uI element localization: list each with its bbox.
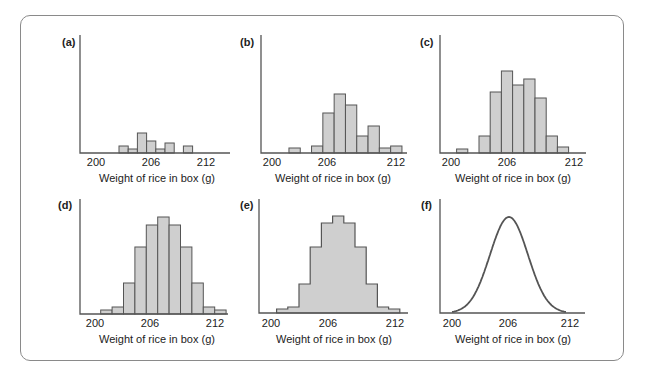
histogram-bar xyxy=(513,85,524,153)
xlabel-d: Weight of rice in box (g) xyxy=(99,333,215,345)
histogram-bar xyxy=(501,71,512,153)
xlabel-f: Weight of rice in box (g) xyxy=(455,333,571,345)
panel-label-a: (a) xyxy=(62,36,76,48)
bars-b xyxy=(289,94,402,153)
histogram-bar xyxy=(192,283,203,314)
tick-212-e: 212 xyxy=(386,317,404,329)
xlabel-c: Weight of rice in box (g) xyxy=(455,172,571,184)
panel-label-e: (e) xyxy=(240,199,254,211)
panel-label-f: (f) xyxy=(421,199,432,211)
tick-206-f: 206 xyxy=(499,317,517,329)
histogram-bar xyxy=(135,247,146,314)
tick-200-c: 200 xyxy=(442,156,460,168)
panel-label-d: (d) xyxy=(58,199,72,211)
tick-200-d: 200 xyxy=(86,317,104,329)
panel-c: (c) 200 206 212 Weight of rice in box (g… xyxy=(420,35,586,184)
panel-label-c: (c) xyxy=(420,36,434,48)
histogram-bar xyxy=(158,217,169,314)
histogram-bar xyxy=(181,247,192,314)
histogram-bar xyxy=(490,92,501,153)
bars-a xyxy=(119,133,193,153)
stepped-area-e xyxy=(277,216,400,313)
tick-206-a: 206 xyxy=(142,156,160,168)
tick-212-d: 212 xyxy=(206,317,224,329)
histogram-bar xyxy=(323,113,334,153)
histogram-bar xyxy=(119,146,128,153)
histogram-bar xyxy=(124,283,135,314)
tick-206-b: 206 xyxy=(318,156,336,168)
histogram-bar xyxy=(146,225,157,314)
panel-label-b: (b) xyxy=(240,36,254,48)
histogram-bar xyxy=(203,307,214,314)
histogram-bar xyxy=(524,79,535,153)
histogram-bar xyxy=(312,146,323,153)
tick-200-a: 200 xyxy=(87,156,105,168)
histogram-bar xyxy=(112,307,123,314)
xlabel-b: Weight of rice in box (g) xyxy=(275,172,391,184)
histogram-bar xyxy=(289,148,300,153)
histogram-bar xyxy=(334,94,345,153)
tick-212-f: 212 xyxy=(561,317,579,329)
normal-curve-f xyxy=(452,217,566,312)
histogram-bar xyxy=(165,143,174,153)
xlabel-e: Weight of rice in box (g) xyxy=(276,333,392,345)
tick-206-e: 206 xyxy=(319,317,337,329)
panel-e: (e) 200 206 212 Weight of rice in box (g… xyxy=(240,199,408,345)
panel-b: (b) 200 206 212 Weight of rice in box (g… xyxy=(240,35,407,184)
bars-d xyxy=(101,217,226,314)
tick-212-a: 212 xyxy=(197,156,215,168)
tick-200-e: 200 xyxy=(262,317,280,329)
histogram-bar xyxy=(479,136,490,153)
histogram-bar xyxy=(169,225,180,314)
xlabel-a: Weight of rice in box (g) xyxy=(99,172,215,184)
axes-a xyxy=(80,35,230,153)
panel-a: (a) 200 206 212 Weight of rice in box (g… xyxy=(62,35,230,184)
axes-f xyxy=(440,199,585,313)
histogram-bar xyxy=(379,148,390,153)
histogram-bar xyxy=(368,126,379,153)
histogram-bar xyxy=(557,147,568,153)
tick-206-c: 206 xyxy=(498,156,516,168)
histogram-figure: (a) 200 206 212 Weight of rice in box (g… xyxy=(0,0,646,371)
histogram-bar xyxy=(357,136,368,153)
tick-212-b: 212 xyxy=(387,156,405,168)
histogram-bar xyxy=(535,98,546,153)
histogram-bar xyxy=(546,136,557,153)
tick-206-d: 206 xyxy=(141,317,159,329)
tick-200-f: 200 xyxy=(443,317,461,329)
panel-f: (f) 200 206 212 Weight of rice in box (g… xyxy=(421,199,585,345)
histogram-bar xyxy=(391,146,402,153)
histogram-bar xyxy=(137,133,146,153)
panel-d: (d) 200 206 212 Weight of rice in box (g… xyxy=(58,199,228,345)
histogram-bar xyxy=(183,146,192,153)
tick-200-b: 200 xyxy=(263,156,281,168)
histogram-bar xyxy=(345,105,356,153)
tick-212-c: 212 xyxy=(565,156,583,168)
histogram-bar xyxy=(147,141,156,153)
bars-c xyxy=(457,71,569,153)
